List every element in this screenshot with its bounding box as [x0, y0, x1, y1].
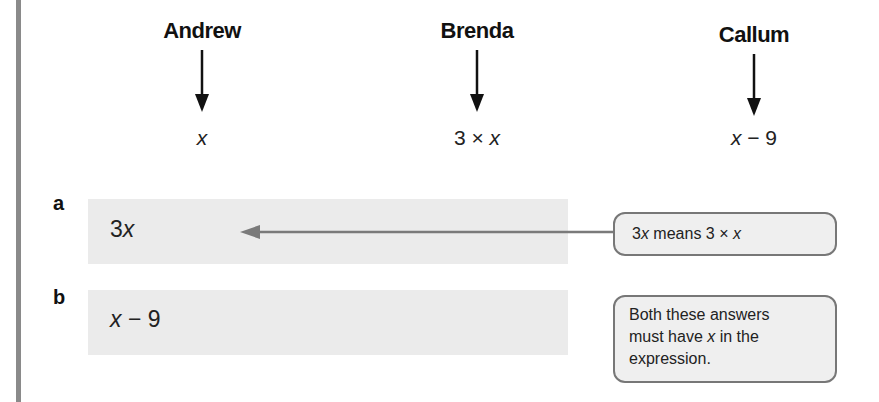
- note-both-answers: Both these answers must have x in the ex…: [613, 295, 837, 383]
- note-3x-means: 3x means 3 × x: [613, 212, 837, 256]
